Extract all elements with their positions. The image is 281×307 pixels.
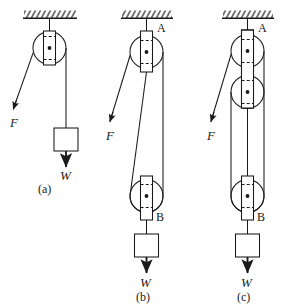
pulley-axle-a-upper-c [246, 49, 250, 53]
panel-b [0, 0, 173, 273]
weight-block-a [54, 128, 78, 151]
caption-b: (b) [136, 290, 150, 304]
force-arrow-c [211, 112, 214, 122]
pulley-axle-a [48, 46, 52, 50]
ceiling-support-b [121, 11, 173, 19]
pulley-label-a-c: A [258, 21, 267, 35]
force-arrow-b [110, 112, 113, 122]
pulley-diagram-svg: F W (a) A F B W (b) A F B W (c) [0, 0, 281, 307]
force-label-c: F [206, 128, 216, 143]
rope-effort-b [111, 55, 130, 118]
ceiling-support-c [222, 11, 274, 19]
force-label-b: F [105, 128, 115, 143]
weight-label-a: W [60, 168, 72, 183]
ceiling-support-a [23, 11, 77, 19]
rope-effort-a [15, 53, 34, 106]
weight-block-c [236, 234, 260, 257]
pulley-systems-figure: F W (a) A F B W (b) A F B W (c) [0, 0, 281, 307]
pulley-bracket-b-movable-c [242, 176, 254, 220]
rope-effort-c [212, 54, 231, 118]
caption-c: (c) [237, 290, 250, 304]
pulley-label-a-b: A [157, 21, 166, 35]
caption-a: (a) [38, 182, 51, 196]
panel-c [211, 11, 274, 274]
force-arrow-a [13, 100, 16, 110]
pulley-axle-b-movable-b [145, 194, 149, 198]
pulley-axle-a-lower-c [246, 90, 250, 94]
weight-block-b [135, 234, 159, 257]
panel-a [13, 11, 78, 168]
force-label-a: F [9, 115, 19, 130]
pulley-label-b-c: B [257, 210, 265, 224]
pulley-axle-a-fixed-b [145, 50, 149, 54]
pulley-bracket-b-movable-b [141, 176, 153, 220]
pulley-axle-b-movable-c [246, 194, 250, 198]
pulley-label-b-b: B [156, 210, 164, 224]
weight-label-b: W [140, 275, 152, 290]
weight-label-c: W [241, 275, 253, 290]
